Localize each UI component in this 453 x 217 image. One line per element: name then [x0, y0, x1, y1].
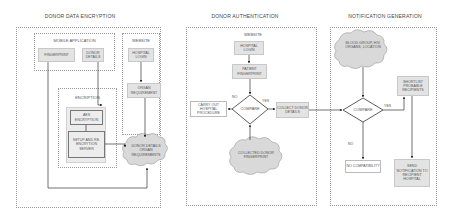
- compare-label-notif: COMPARE: [345, 108, 381, 112]
- cloud-blood-group-label: BLOOD GROUP, HIV, ORGANS, LOCATION: [338, 41, 388, 50]
- no-label-auth: NO: [232, 95, 237, 99]
- yes-label-auth: YES: [262, 99, 269, 103]
- cloud-collected-fingerprint-label: COLLECTED DONOR FINGERPRINT: [230, 151, 282, 160]
- cloud-donor-details-label: DONOR DETAILS ORGAN REQUIREMENTS: [126, 144, 166, 157]
- no-label-notif: NO: [348, 142, 353, 146]
- yes-label-notif: YES: [384, 104, 391, 108]
- compare-label-auth: COMPARE: [234, 107, 266, 111]
- diagram-connectors: [0, 0, 453, 217]
